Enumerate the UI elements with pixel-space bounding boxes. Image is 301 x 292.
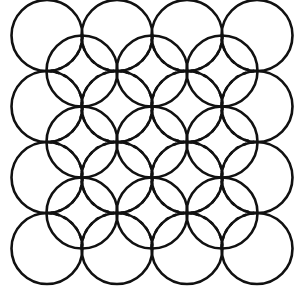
outer-circles — [12, 0, 293, 284]
inner-circles — [47, 36, 258, 249]
circle-pattern-diagram — [0, 0, 301, 292]
